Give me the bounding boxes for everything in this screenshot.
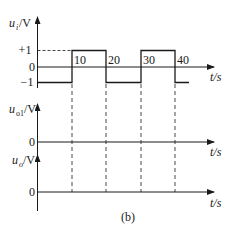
ylabel-uo1-unit: /V — [24, 102, 36, 116]
plot-uo: u o /V 0 t/s — [12, 153, 222, 211]
xtick-40: 40 — [177, 53, 189, 67]
ytick-zero-uo: 0 — [29, 185, 35, 199]
xtick-20: 20 — [108, 53, 120, 67]
ylabel-uo1-sub: o1 — [16, 109, 24, 118]
xlabel-uo1: t/s — [210, 145, 222, 159]
xlabel-uo: t/s — [210, 196, 222, 210]
plot-ui: u i /V +1 0 −1 10 20 30 40 t/s — [9, 16, 222, 89]
ylabel-uo-unit: /V — [23, 153, 35, 167]
ylabel-ui-main: u — [9, 16, 15, 30]
ytick-minus1: −1 — [21, 75, 34, 89]
plot-uo1: u o1 /V 0 t/s — [9, 102, 222, 159]
figure-caption: (b) — [121, 210, 135, 224]
alignment-guides — [72, 84, 175, 192]
xtick-30: 30 — [143, 53, 155, 67]
waveform-diagram: u i /V +1 0 −1 10 20 30 40 t/s u o1 /V 0… — [0, 0, 233, 232]
ytick-plus1: +1 — [19, 43, 32, 57]
ylabel-ui-unit: /V — [19, 16, 31, 30]
xtick-10: 10 — [74, 53, 86, 67]
ylabel-uo-main: u — [12, 153, 18, 167]
ytick-zero-ui: 0 — [29, 60, 35, 74]
ytick-zero-uo1: 0 — [29, 135, 35, 149]
ylabel-ui-sub: i — [16, 23, 18, 32]
xlabel-ui: t/s — [210, 70, 222, 84]
ylabel-uo1-main: u — [9, 102, 15, 116]
